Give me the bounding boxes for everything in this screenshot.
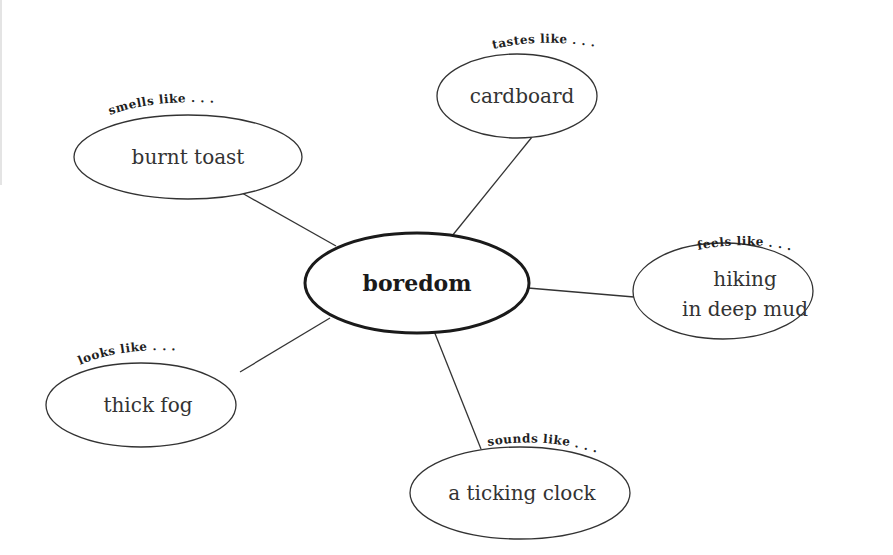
node-feels: hiking in deep mud feels like . . . [633, 234, 813, 339]
node-sounds: a ticking clock sounds like . . . [410, 431, 630, 539]
center-node: boredom [305, 233, 529, 333]
connector-smells [242, 193, 336, 246]
node-ellipse [633, 243, 813, 339]
connector-sounds [434, 331, 481, 449]
node-label: burnt toast [132, 145, 245, 169]
node-label-line2: in deep mud [682, 297, 808, 321]
connector-tastes [452, 137, 532, 236]
node-label-line1: hiking [713, 267, 777, 291]
node-tastes: cardboard tastes like . . . [437, 32, 597, 138]
node-looks: thick fog looks like . . . [46, 339, 236, 447]
cue-label: smells like . . . [106, 91, 215, 118]
connector-feels [528, 288, 634, 297]
node-label: thick fog [103, 393, 192, 417]
node-smells: burnt toast smells like . . . [74, 91, 302, 199]
cue-label: tastes like . . . [491, 32, 597, 52]
node-label: a ticking clock [448, 481, 596, 505]
connector-looks [240, 318, 330, 372]
concept-web: burnt toast smells like . . . cardboard … [0, 0, 893, 555]
center-label: boredom [363, 270, 472, 296]
node-label: cardboard [470, 84, 575, 108]
